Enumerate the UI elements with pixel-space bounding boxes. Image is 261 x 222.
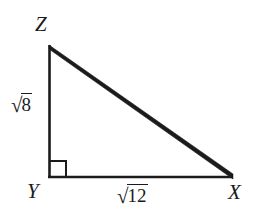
side-length-label-yx: √12 — [116, 184, 148, 207]
radical-expression: √12 — [116, 184, 148, 207]
vertex-label-z: Z — [35, 14, 47, 35]
radicand-value: 8 — [21, 93, 33, 114]
vertex-label-y: Y — [27, 181, 39, 202]
hypotenuse-line — [49, 45, 233, 179]
vertex-label-x: X — [228, 182, 241, 203]
radical-expression: √8 — [10, 93, 32, 116]
right-angle-marker — [49, 161, 66, 177]
radicand-value: 12 — [127, 184, 148, 205]
side-length-label-zy: √8 — [10, 93, 32, 116]
geometry-figure: Z Y X √8 √12 — [0, 0, 261, 222]
